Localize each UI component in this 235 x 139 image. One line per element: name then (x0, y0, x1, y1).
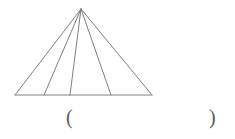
answer-blank[interactable] (78, 109, 208, 129)
triangle-right-side (81, 9, 152, 95)
answer-row: ( ) (0, 101, 235, 139)
answer-open-paren: ( (66, 107, 73, 127)
answer-close-paren: ) (209, 107, 216, 127)
triangle-lines-group (15, 9, 152, 95)
figure-page: ( ) (0, 0, 235, 139)
cevian-line-3 (81, 9, 111, 95)
triangle-left-side (15, 9, 81, 95)
